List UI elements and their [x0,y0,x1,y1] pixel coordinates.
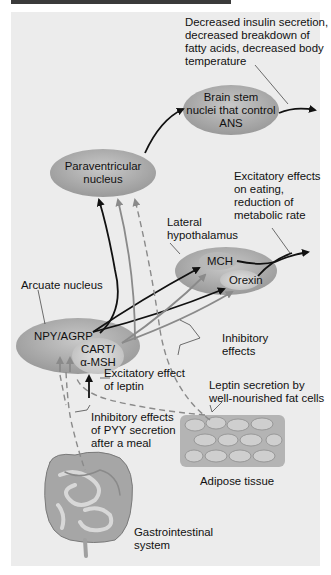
lh-effects-annotation: Excitatory effects on eating, reduction … [234,170,321,222]
arrow-pvn-to-brainstem [145,109,183,153]
brainstem-effects-annotation: Decreased insulin secretion, decreased b… [185,16,328,68]
npy-agrp-label: NPY/AGRP [34,330,93,343]
inhibitory-effects-annotation: Inhibitory effects [222,332,268,358]
dashed-leptin-vertical [60,375,66,405]
arrow-cart-to-pvn [118,200,135,340]
gastrointestinal-label: Gastrointestinal system [134,526,213,552]
arrow-npy-to-mch [93,268,199,332]
arrow-brainstem-out [279,109,315,113]
cart-msh-label: CART/ α-MSH [75,343,121,369]
leptin-secretion-annotation: Leptin secretion by well-nourished fat c… [209,379,324,405]
adipose-tissue-image [180,415,285,467]
lateral-hypothalamus-label: Lateral hypothalamus [167,216,238,242]
excitatory-leptin-annotation: Excitatory effect of leptin [104,367,185,393]
paraventricular-label: Paraventricular nucleus [50,160,156,186]
adipose-tissue-label: Adipose tissue [200,475,274,488]
gastrointestinal-image [45,452,133,556]
arrow-npy-to-pvn [99,200,118,333]
arcuate-nucleus-label: Arcuate nucleus [21,279,103,292]
arrow-cart-to-orexin [122,292,232,343]
orexin-label: Orexin [229,274,263,287]
pyy-annotation: Inhibitory effects of PYY secretion afte… [91,411,176,450]
mch-label: MCH [207,255,233,268]
brainstem-label: Brain stem nuclei that control ANS [183,91,279,130]
